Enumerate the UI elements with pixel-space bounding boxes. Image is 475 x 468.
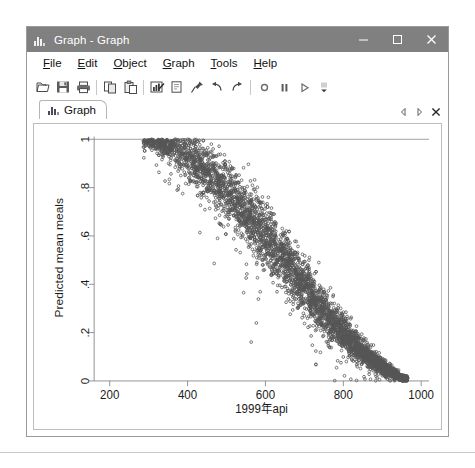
menu-label-graph: raph bbox=[172, 57, 195, 69]
undo-icon[interactable] bbox=[207, 77, 227, 97]
window-title: Graph - Graph bbox=[54, 34, 129, 46]
tab-label: Graph bbox=[64, 104, 96, 116]
svg-text:.6: .6 bbox=[79, 231, 91, 241]
menu-item-edit[interactable]: Edit bbox=[70, 55, 106, 71]
menu-label-help: elp bbox=[262, 57, 277, 69]
menu-label-file: ile bbox=[50, 57, 62, 69]
menu-label-tools: ools bbox=[216, 57, 237, 69]
close-tab-icon[interactable] bbox=[431, 107, 441, 117]
svg-text:400: 400 bbox=[178, 387, 198, 400]
menu-item-graph[interactable]: Graph bbox=[155, 55, 203, 71]
prev-tab-icon[interactable] bbox=[399, 107, 408, 117]
menu-item-object[interactable]: Object bbox=[105, 55, 154, 71]
scatter-plot: 0.2.4.6.8120040060080010001999年apiPredic… bbox=[34, 124, 441, 429]
svg-text:1000: 1000 bbox=[408, 387, 434, 400]
svg-text:0: 0 bbox=[79, 378, 91, 384]
toolbar-separator bbox=[96, 80, 97, 95]
print-icon[interactable] bbox=[73, 77, 93, 97]
close-button[interactable] bbox=[414, 27, 448, 52]
svg-text:200: 200 bbox=[100, 387, 120, 400]
minimize-button[interactable] bbox=[346, 27, 380, 52]
menu-label-object: bject bbox=[122, 57, 146, 69]
open-icon[interactable] bbox=[33, 77, 53, 97]
maximize-button[interactable] bbox=[380, 27, 414, 52]
graph-window: Graph - Graph File Edit Object Graph Too… bbox=[26, 26, 449, 437]
menu-item-tools[interactable]: Tools bbox=[203, 55, 246, 71]
page-divider bbox=[0, 452, 475, 453]
svg-text:1999年api: 1999年api bbox=[235, 402, 288, 415]
menu-item-file[interactable]: File bbox=[35, 55, 70, 71]
next-tab-icon[interactable] bbox=[415, 107, 424, 117]
svg-text:Predicted mean meals: Predicted mean meals bbox=[52, 198, 65, 318]
paste-icon[interactable] bbox=[120, 77, 140, 97]
svg-text:800: 800 bbox=[334, 387, 354, 400]
svg-text:600: 600 bbox=[256, 387, 276, 400]
new-graph-icon[interactable] bbox=[167, 77, 187, 97]
menu-label-edit: dit bbox=[85, 57, 97, 69]
save-icon[interactable] bbox=[53, 77, 73, 97]
toolbar-separator bbox=[250, 80, 251, 95]
graph-editor-icon[interactable] bbox=[147, 77, 167, 97]
copy-icon[interactable] bbox=[100, 77, 120, 97]
toolbar-overflow-icon[interactable] bbox=[314, 77, 334, 97]
tab-graph[interactable]: Graph bbox=[39, 100, 107, 119]
toolbar-separator bbox=[143, 80, 144, 95]
title-bar: Graph - Graph bbox=[27, 27, 448, 52]
record-icon[interactable] bbox=[254, 77, 274, 97]
tab-bar: Graph bbox=[27, 99, 448, 119]
bar-chart-icon bbox=[48, 105, 59, 115]
pause-icon[interactable] bbox=[274, 77, 294, 97]
screenshot-root: Graph - Graph File Edit Object Graph Too… bbox=[0, 0, 475, 468]
menu-item-help[interactable]: Help bbox=[245, 55, 285, 71]
bar-chart-icon bbox=[34, 34, 48, 46]
graph-canvas-area: 0.2.4.6.8120040060080010001999年apiPredic… bbox=[27, 119, 448, 436]
redo-icon[interactable] bbox=[227, 77, 247, 97]
graph-frame[interactable]: 0.2.4.6.8120040060080010001999年apiPredic… bbox=[33, 123, 442, 430]
tab-navigation bbox=[399, 107, 441, 117]
svg-text:.8: .8 bbox=[79, 183, 91, 193]
window-controls bbox=[346, 27, 448, 52]
menu-bar: File Edit Object Graph Tools Help bbox=[27, 52, 448, 75]
play-icon[interactable] bbox=[294, 77, 314, 97]
svg-text:.2: .2 bbox=[79, 328, 91, 338]
svg-text:1: 1 bbox=[79, 136, 91, 142]
svg-text:.4: .4 bbox=[79, 279, 91, 289]
pin-icon[interactable] bbox=[187, 77, 207, 97]
toolbar bbox=[27, 75, 448, 99]
